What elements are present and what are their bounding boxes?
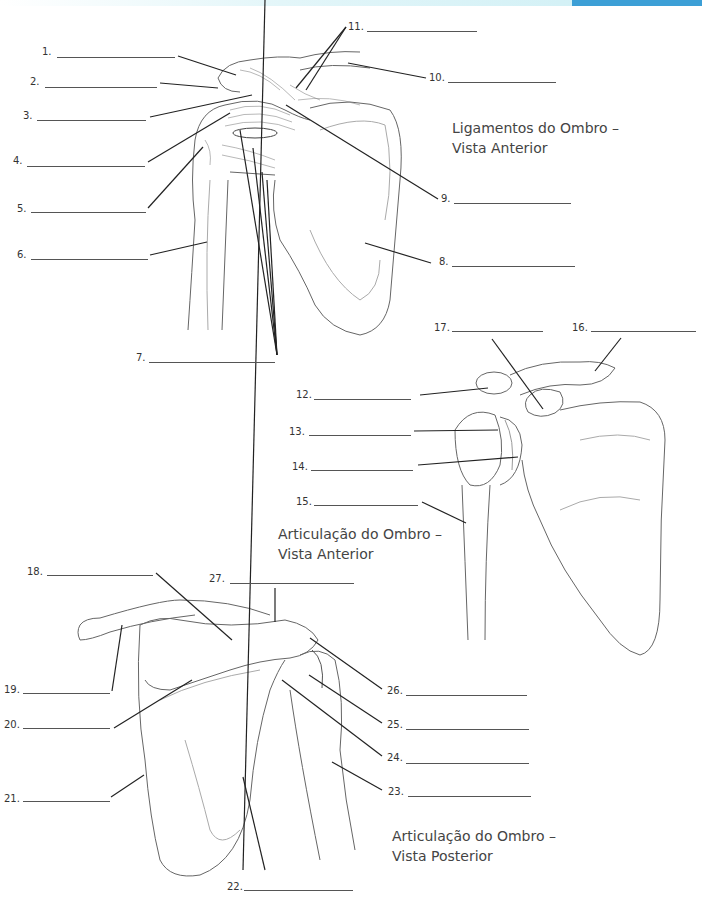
label-7-number: 7. — [136, 352, 146, 364]
label-18-blank[interactable] — [47, 575, 153, 576]
label-2-number: 2. — [30, 76, 40, 88]
title-line-1: Articulação do Ombro – — [392, 826, 556, 846]
label-4-blank[interactable] — [27, 166, 145, 167]
figure-title-joint-posterior: Articulação do Ombro – Vista Posterior — [392, 826, 556, 866]
label-11-blank[interactable] — [367, 31, 477, 32]
label-1-number: 1. — [42, 46, 52, 58]
label-3-blank[interactable] — [37, 120, 146, 121]
label-22-number: 22. — [227, 881, 243, 893]
title-line-2: Vista Posterior — [392, 846, 556, 866]
label-13-blank[interactable] — [309, 435, 411, 436]
label-23-number: 23. — [388, 786, 404, 798]
joint-anterior-drawing — [455, 362, 665, 655]
label-13-number: 13. — [289, 426, 305, 438]
label-21-number: 21. — [4, 793, 20, 805]
label-5-blank[interactable] — [31, 212, 146, 213]
label-20-blank[interactable] — [23, 728, 110, 729]
title-line-1: Ligamentos do Ombro – — [452, 118, 619, 138]
label-7-blank[interactable] — [149, 362, 275, 363]
figure-title-joint-anterior: Articulação do Ombro – Vista Anterior — [278, 524, 442, 564]
title-line-2: Vista Anterior — [452, 138, 619, 158]
label-3-number: 3. — [23, 110, 33, 122]
label-19-blank[interactable] — [23, 693, 110, 694]
label-17-number: 17. — [434, 322, 450, 334]
label-2-blank[interactable] — [45, 87, 157, 88]
figure-title-ligaments-anterior: Ligamentos do Ombro – Vista Anterior — [452, 118, 619, 158]
label-10-number: 10. — [429, 72, 445, 84]
label-26-number: 26. — [387, 685, 403, 697]
label-17-blank[interactable] — [452, 331, 543, 332]
label-8-blank[interactable] — [452, 266, 575, 267]
label-25-number: 25. — [387, 719, 403, 731]
label-26-blank[interactable] — [406, 695, 527, 696]
title-line-1: Articulação do Ombro – — [278, 524, 442, 544]
label-22-blank[interactable] — [244, 890, 353, 891]
label-11-number: 11. — [348, 21, 364, 33]
label-8-number: 8. — [439, 256, 449, 268]
label-10-blank[interactable] — [448, 82, 556, 83]
label-23-blank[interactable] — [408, 796, 531, 797]
label-14-number: 14. — [292, 461, 308, 473]
label-27-blank[interactable] — [230, 583, 354, 584]
label-18-number: 18. — [27, 566, 43, 578]
label-9-number: 9. — [441, 193, 451, 205]
label-25-blank[interactable] — [406, 729, 529, 730]
label-27-number: 27. — [209, 573, 225, 585]
ligaments-anterior-drawing — [188, 52, 401, 335]
label-16-number: 16. — [572, 322, 588, 334]
label-14-blank[interactable] — [311, 470, 413, 471]
label-5-number: 5. — [17, 203, 27, 215]
label-6-blank[interactable] — [31, 259, 148, 260]
label-21-blank[interactable] — [23, 801, 110, 802]
label-24-number: 24. — [387, 752, 403, 764]
label-1-blank[interactable] — [57, 57, 175, 58]
label-4-number: 4. — [13, 155, 23, 167]
label-9-blank[interactable] — [454, 203, 571, 204]
label-15-number: 15. — [296, 496, 312, 508]
label-12-number: 12. — [296, 389, 312, 401]
label-19-number: 19. — [4, 684, 20, 696]
label-24-blank[interactable] — [406, 763, 529, 764]
label-12-blank[interactable] — [314, 399, 411, 400]
title-line-2: Vista Anterior — [278, 544, 442, 564]
label-15-blank[interactable] — [314, 505, 418, 506]
label-16-blank[interactable] — [591, 331, 696, 332]
label-20-number: 20. — [4, 719, 20, 731]
label-6-number: 6. — [17, 249, 27, 261]
